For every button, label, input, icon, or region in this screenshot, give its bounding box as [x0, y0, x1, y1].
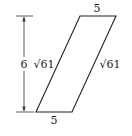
- label-left-side: √61: [33, 58, 54, 71]
- arrow-up-icon: [22, 17, 25, 22]
- arrow-down-icon: [22, 107, 25, 112]
- label-height: 6: [21, 58, 28, 71]
- parallelogram-diagram: 6 5 5 √61 √61: [0, 0, 132, 136]
- label-right-side: √61: [99, 58, 120, 71]
- label-bottom-side: 5: [51, 114, 58, 127]
- label-top-side: 5: [94, 2, 101, 15]
